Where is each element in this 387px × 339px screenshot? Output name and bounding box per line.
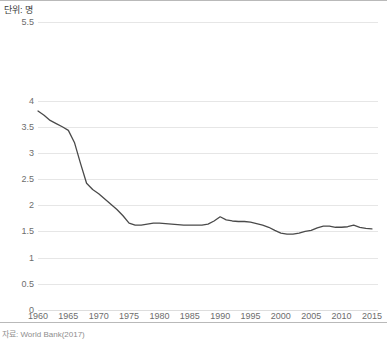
y-axis-tick-label: 3	[0, 148, 34, 158]
x-axis-tick-label: 2000	[271, 311, 291, 321]
y-axis-tick-label: 1.5	[0, 226, 34, 236]
x-axis-tick-label: 1970	[89, 311, 109, 321]
y-axis-tick-label: 2.5	[0, 174, 34, 184]
y-axis-unit-label: 단위: 명	[4, 3, 33, 16]
y-axis-tick-label: 5.5	[0, 17, 34, 27]
fertility-rate-line	[38, 111, 372, 234]
x-axis-tick-label: 1980	[149, 311, 169, 321]
x-axis-tick-label: 2005	[301, 311, 321, 321]
x-axis-tick-label: 2015	[362, 311, 382, 321]
x-axis-tick-label: 1960	[28, 311, 48, 321]
figure-top-rule	[0, 0, 387, 1]
x-axis-tick-labels: 1960196519701975198019851990199520002005…	[38, 311, 378, 323]
plot-area	[38, 22, 378, 310]
y-axis-tick-label: 3.5	[0, 122, 34, 132]
x-axis-tick-label: 1995	[240, 311, 260, 321]
x-axis-tick-label: 1985	[180, 311, 200, 321]
y-axis-tick-labels: 00.511.522.533.545.5	[0, 22, 34, 310]
fertility-rate-chart-figure: 단위: 명 00.511.522.533.545.5 1960196519701…	[0, 0, 387, 339]
y-axis-tick-label: 2	[0, 200, 34, 210]
x-axis-tick-label: 1965	[58, 311, 78, 321]
x-axis-tick-label: 1975	[119, 311, 139, 321]
y-axis-tick-label: 0.5	[0, 279, 34, 289]
x-axis-tick-label: 2010	[332, 311, 352, 321]
x-axis-tick-label: 1990	[210, 311, 230, 321]
source-note: 자료: World Bank(2017)	[2, 328, 85, 339]
y-axis-tick-label: 1	[0, 253, 34, 263]
y-axis-tick-label: 4	[0, 96, 34, 106]
line-series-group	[38, 22, 378, 310]
